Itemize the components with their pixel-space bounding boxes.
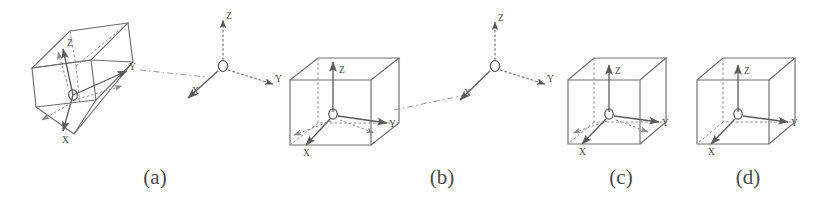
panel-b-x-label: X <box>303 148 310 158</box>
standalone-frame-1: Z Y X O <box>188 11 282 98</box>
panel-a-coordinate-frame: Z Y X O <box>42 38 136 145</box>
panel-c-z-label: Z <box>615 66 621 76</box>
panel-c-proj-arrow-1 <box>573 121 607 133</box>
panel-c-coordinate-frame: Z Y X O <box>573 65 669 157</box>
frame1-x-label: X <box>192 86 199 96</box>
panel-a-x-label: X <box>62 135 69 145</box>
panel-a-proj-arrow-2 <box>78 86 122 99</box>
panel-b-proj-arrow-2 <box>340 120 374 133</box>
panel-a-proj-arrow-1 <box>42 100 76 120</box>
panel-d-x-label: X <box>708 147 715 157</box>
figure-root: .edge { fill:none; stroke:#6e6e6e; strok… <box>0 0 826 219</box>
panel-d-y-label: Y <box>791 118 798 128</box>
caption-a: (a) <box>143 165 166 190</box>
frame1-z-label: Z <box>226 11 232 21</box>
panel-c-y-label: Y <box>662 118 669 128</box>
caption-c: (c) <box>609 165 632 190</box>
panel-c-x-label: X <box>579 147 586 157</box>
panel-d-z-label: Z <box>744 66 750 76</box>
panel-b-y-label: Y <box>389 119 396 129</box>
panel-b-proj-arrow-1 <box>294 121 331 135</box>
diagram-canvas: .edge { fill:none; stroke:#6e6e6e; strok… <box>0 0 826 219</box>
panel-b-coordinate-frame: Z Y X O <box>294 62 396 158</box>
panel-a-y-label: Y <box>129 62 136 72</box>
standalone-frame-2: Z Y X O <box>460 13 554 100</box>
panel-a-proj-arrow-3 <box>58 52 68 86</box>
panel-d-coordinate-frame: Z Y X O <box>708 65 798 157</box>
panel-a-z-label: Z <box>67 38 73 48</box>
leader-line-b-to-frame2 <box>394 94 470 110</box>
caption-b: (b) <box>430 165 455 190</box>
frame2-y-label: Y <box>547 74 554 84</box>
caption-d: (d) <box>736 165 761 190</box>
leader-line-a-to-frame1 <box>140 70 206 77</box>
frame1-y-label: Y <box>275 74 282 84</box>
frame2-z-label: Z <box>498 13 504 23</box>
panel-b-z-label: Z <box>339 65 345 75</box>
frame2-x-label: X <box>464 88 471 98</box>
